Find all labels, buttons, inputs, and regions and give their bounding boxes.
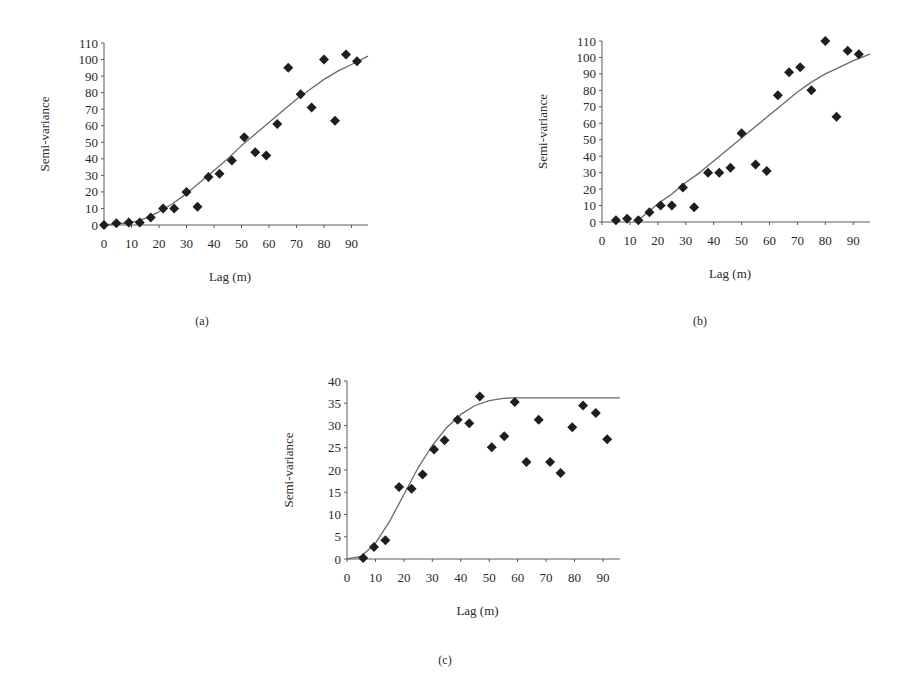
x-tick-label: 80 bbox=[568, 570, 581, 585]
y-tick-label: 70 bbox=[583, 99, 596, 114]
y-tick-label: 20 bbox=[328, 463, 341, 478]
x-tick-label: 0 bbox=[599, 233, 606, 248]
x-tick-label: 0 bbox=[101, 236, 108, 251]
data-point-diamond-icon bbox=[272, 119, 282, 129]
data-point-diamond-icon bbox=[380, 535, 390, 545]
y-tick-label: 110 bbox=[577, 34, 596, 49]
y-tick-label: 0 bbox=[590, 215, 597, 230]
y-tick-label: 10 bbox=[85, 201, 98, 216]
data-point-diamond-icon bbox=[124, 218, 134, 228]
data-point-diamond-icon bbox=[820, 36, 830, 46]
data-point-diamond-icon bbox=[227, 155, 237, 165]
x-tick-label: 20 bbox=[397, 570, 410, 585]
x-tick-label: 60 bbox=[763, 233, 776, 248]
data-point-diamond-icon bbox=[751, 159, 761, 169]
y-axis-label: Semi-variance bbox=[37, 96, 52, 171]
data-point-diamond-icon bbox=[487, 442, 497, 452]
y-tick-label: 30 bbox=[328, 418, 341, 433]
data-point-diamond-icon bbox=[358, 553, 368, 563]
data-point-diamond-icon bbox=[250, 147, 260, 157]
y-tick-label: 80 bbox=[85, 85, 98, 100]
y-tick-label: 80 bbox=[583, 83, 596, 98]
y-axis-label: Semi-variance bbox=[281, 432, 296, 507]
y-tick-label: 0 bbox=[92, 218, 99, 233]
data-point-diamond-icon bbox=[725, 163, 735, 173]
y-tick-label: 15 bbox=[328, 485, 341, 500]
x-tick-label: 0 bbox=[344, 570, 351, 585]
y-tick-label: 100 bbox=[79, 52, 99, 67]
y-tick-label: 0 bbox=[335, 552, 342, 567]
data-point-diamond-icon bbox=[611, 215, 621, 225]
y-tick-label: 60 bbox=[583, 116, 596, 131]
y-tick-label: 70 bbox=[85, 102, 98, 117]
data-point-diamond-icon bbox=[215, 169, 225, 179]
data-point-diamond-icon bbox=[689, 202, 699, 212]
x-tick-label: 10 bbox=[125, 236, 138, 251]
y-tick-label: 110 bbox=[79, 36, 98, 51]
y-tick-label: 90 bbox=[85, 69, 98, 84]
data-point-diamond-icon bbox=[307, 103, 317, 113]
data-point-diamond-icon bbox=[296, 89, 306, 99]
data-point-diamond-icon bbox=[418, 469, 428, 479]
x-tick-label: 20 bbox=[651, 233, 664, 248]
data-point-diamond-icon bbox=[773, 90, 783, 100]
y-tick-label: 40 bbox=[583, 149, 596, 164]
y-axis-label: Semi-variance bbox=[535, 94, 550, 169]
data-point-diamond-icon bbox=[261, 151, 271, 161]
data-point-diamond-icon bbox=[330, 116, 340, 126]
data-point-diamond-icon bbox=[762, 166, 772, 176]
y-tick-label: 90 bbox=[583, 66, 596, 81]
x-tick-label: 10 bbox=[369, 570, 382, 585]
y-tick-label: 60 bbox=[85, 118, 98, 133]
data-point-diamond-icon bbox=[521, 457, 531, 467]
data-point-diamond-icon bbox=[602, 434, 612, 444]
data-point-diamond-icon bbox=[341, 50, 351, 60]
y-tick-label: 10 bbox=[328, 507, 341, 522]
data-point-diamond-icon bbox=[806, 85, 816, 95]
y-tick-label: 35 bbox=[328, 396, 341, 411]
data-point-diamond-icon bbox=[352, 56, 362, 66]
x-tick-label: 30 bbox=[180, 236, 193, 251]
x-tick-label: 90 bbox=[596, 570, 609, 585]
x-tick-label: 50 bbox=[483, 570, 496, 585]
data-point-diamond-icon bbox=[394, 482, 404, 492]
data-point-diamond-icon bbox=[545, 457, 555, 467]
data-point-diamond-icon bbox=[475, 392, 485, 402]
data-point-diamond-icon bbox=[556, 468, 566, 478]
x-tick-label: 70 bbox=[540, 570, 553, 585]
data-point-diamond-icon bbox=[667, 201, 677, 211]
y-tick-label: 30 bbox=[85, 168, 98, 183]
fitted-model-line bbox=[636, 54, 871, 222]
x-axis-label: Lag (m) bbox=[209, 269, 251, 284]
data-point-diamond-icon bbox=[99, 220, 109, 230]
fitted-model-line bbox=[104, 56, 368, 225]
figure-canvas: 0102030405060708090100110010203040506070… bbox=[0, 0, 897, 685]
y-tick-label: 20 bbox=[85, 184, 98, 199]
x-tick-label: 60 bbox=[263, 236, 276, 251]
data-point-diamond-icon bbox=[784, 67, 794, 77]
data-point-diamond-icon bbox=[464, 418, 474, 428]
chart-c: 05101520253035400102030405060708090Lag (… bbox=[281, 374, 620, 619]
data-point-diamond-icon bbox=[499, 431, 509, 441]
data-point-diamond-icon bbox=[193, 202, 203, 212]
x-tick-label: 80 bbox=[819, 233, 832, 248]
x-tick-label: 40 bbox=[454, 570, 467, 585]
x-tick-label: 80 bbox=[318, 236, 331, 251]
data-point-diamond-icon bbox=[795, 62, 805, 72]
y-tick-label: 100 bbox=[577, 50, 597, 65]
x-tick-label: 30 bbox=[679, 233, 692, 248]
data-point-diamond-icon bbox=[407, 484, 417, 494]
y-tick-label: 50 bbox=[583, 132, 596, 147]
x-tick-label: 40 bbox=[707, 233, 720, 248]
x-tick-label: 70 bbox=[791, 233, 804, 248]
x-tick-label: 20 bbox=[153, 236, 166, 251]
y-tick-label: 40 bbox=[328, 374, 341, 389]
data-point-diamond-icon bbox=[843, 46, 853, 56]
chart-b: 0102030405060708090100110010203040506070… bbox=[535, 34, 870, 282]
data-point-diamond-icon bbox=[578, 400, 588, 410]
caption-b: (b) bbox=[680, 314, 720, 329]
figure: 0102030405060708090100110010203040506070… bbox=[0, 0, 897, 685]
data-point-diamond-icon bbox=[737, 128, 747, 138]
x-axis-label: Lag (m) bbox=[709, 266, 751, 281]
data-point-diamond-icon bbox=[453, 415, 463, 425]
